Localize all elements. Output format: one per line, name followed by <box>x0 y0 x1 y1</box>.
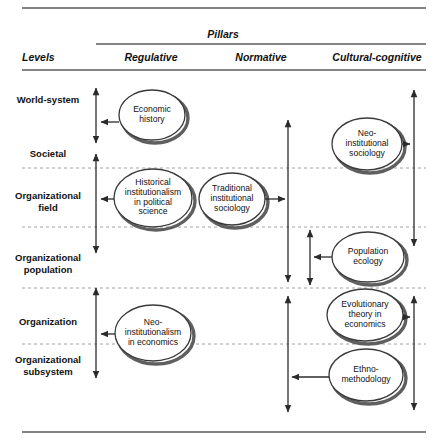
theory-nodes <box>114 90 407 404</box>
node-historical-institutionalism <box>114 169 192 227</box>
level-label-organizational-population: Organizationalpopulation <box>4 252 92 275</box>
pillar-header-cultural-cognitive: Cultural-cognitive <box>316 51 438 63</box>
levels-header: Levels <box>22 51 55 63</box>
node-economic-history <box>119 90 185 140</box>
node-neo-institutional-sociology <box>332 118 402 170</box>
node-neo-institutionalism-economics <box>115 305 191 361</box>
level-label-societal: Societal <box>4 148 92 160</box>
node-evolutionary-theory-economics <box>327 289 403 341</box>
pillars-title: Pillars <box>0 28 446 40</box>
node-population-ecology <box>332 232 404 282</box>
pillar-header-normative: Normative <box>206 51 316 63</box>
institutional-theory-diagram: Pillars Levels Regulative Normative Cult… <box>0 0 446 448</box>
node-traditional-institutional-sociology <box>199 173 265 225</box>
level-label-organizational-subsystem: Organizationalsubsystem <box>4 354 92 377</box>
node-ethnomethodology <box>329 349 403 401</box>
diagram-canvas <box>0 0 446 448</box>
level-label-world-system: World-system <box>4 94 92 106</box>
pillar-header-regulative: Regulative <box>96 51 206 63</box>
level-label-organization: Organization <box>4 316 92 328</box>
level-label-organizational-field: Organizationalfield <box>4 190 92 213</box>
